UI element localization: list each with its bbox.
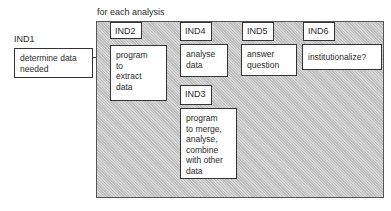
ind4-text-line: analyse [186,49,222,60]
ind6-tag: IND6 [303,22,335,41]
ind1-box: determine data needed [14,48,93,78]
container-label: for each analysis [97,7,165,18]
ind3-text-line: data [186,166,231,177]
ind1-text-line: needed [20,64,87,75]
ind1-label: IND1 [14,34,35,45]
ind3-text-line: with other [186,155,231,166]
ind3-box: program to merge, analyse, combine with … [180,108,237,179]
ind3-text-line: combine [186,145,231,156]
ind3-tag: IND3 [180,85,212,105]
ind1-text-line: determine data [20,53,87,64]
ind4-box: analyse data [180,44,228,77]
ind2-text-line: to [116,61,161,72]
ind5-box: answer question [241,44,297,76]
ind6-text-line: institutionalize? [308,52,376,63]
ind5-text-line: question [247,60,291,71]
ind3-text-line: to merge, [186,124,231,135]
ind2-tag: IND2 [110,22,142,39]
ind6-box: institutionalize? [302,44,382,70]
ind2-text-line: program [116,50,161,61]
ind3-text-line: analyse, [186,134,231,145]
ind4-tag: IND4 [180,22,212,41]
ind2-text-line: extract [116,71,161,82]
ind4-text-line: data [186,60,222,71]
ind5-text-line: answer [247,49,291,60]
ind5-tag: IND5 [242,22,274,41]
ind3-text-line: program [186,113,231,124]
ind2-box: program to extract data [110,45,167,101]
ind2-text-line: data [116,82,161,93]
